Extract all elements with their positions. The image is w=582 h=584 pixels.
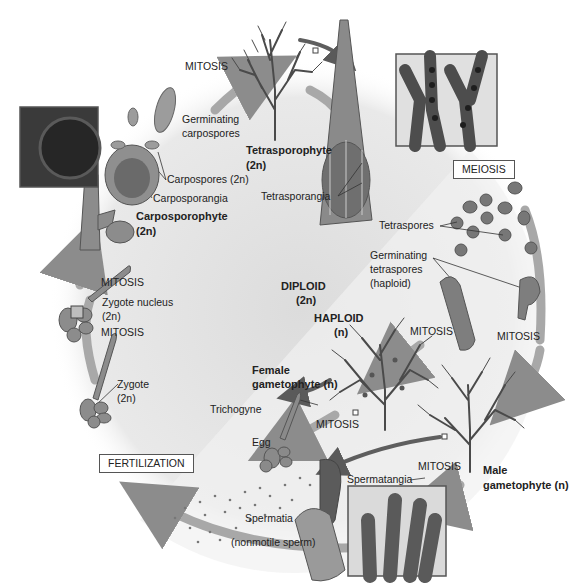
label-zygote-nucleus-ploidy: (2n) <box>102 310 121 323</box>
label-carposporophyte-ploidy: (2n) <box>136 225 156 238</box>
label-mitosis-female-lower: MITOSIS <box>316 418 359 431</box>
micrograph-tetrasporophyte <box>396 54 497 146</box>
label-germinating-carpospores-2: carpospores <box>182 127 240 140</box>
label-germinating-tetraspores-2: tetraspores <box>370 263 423 276</box>
label-carposporophyte: Carposporophyte <box>136 210 228 223</box>
label-diploid-ploidy: (2n) <box>296 294 316 307</box>
label-germinating-tetraspores-3: (haploid) <box>370 277 411 290</box>
label-zygote-ploidy: (2n) <box>117 392 136 405</box>
zoom-marker <box>313 48 318 53</box>
label-tetrasporophyte: Tetrasporophyte <box>246 144 332 157</box>
label-female-gametophyte-2: gametophyte (n) <box>252 378 338 391</box>
label-germinating-carpospores-1: Germinating <box>182 113 239 126</box>
life-cycle-diagram: MITOSIS Germinating carpospores Tetraspo… <box>0 0 582 584</box>
fertilization-box: FERTILIZATION <box>99 454 194 473</box>
label-nonmotile-sperm: (nonmotile sperm) <box>231 536 316 549</box>
label-tetrasporangia: Tetrasporangia <box>261 190 330 203</box>
label-carposporangia: Carposporangia <box>153 192 228 205</box>
label-haploid-ploidy: (n) <box>334 326 348 339</box>
label-egg: Egg <box>252 436 271 449</box>
label-mitosis-carpospores: MITOSIS <box>185 60 228 73</box>
label-tetraspores: Tetraspores <box>379 219 434 232</box>
label-female-gametophyte-1: Female <box>252 364 290 377</box>
label-trichogyne: Trichogyne <box>210 403 262 416</box>
label-haploid: HAPLOID <box>314 312 364 325</box>
label-spermatia: Spermatia <box>245 512 293 525</box>
label-zygote-nucleus: Zygote nucleus <box>102 296 173 309</box>
meiosis-box: MEIOSIS <box>453 160 515 179</box>
label-male-gametophyte-1: Male <box>483 464 507 477</box>
zoom-marker <box>442 434 447 439</box>
label-diploid: DIPLOID <box>281 280 326 293</box>
label-spermatangia: Spermatangia <box>347 473 412 486</box>
label-zygote: Zygote <box>117 378 149 391</box>
label-carpospores: Carpospores (2n) <box>167 173 249 186</box>
label-mitosis-carposporophyte: MITOSIS <box>101 276 144 289</box>
label-mitosis-male: MITOSIS <box>497 330 540 343</box>
label-germinating-tetraspores-1: Germinating <box>370 249 427 262</box>
label-male-gametophyte-2: gametophyte (n) <box>483 479 569 492</box>
label-mitosis-female: MITOSIS <box>410 325 453 338</box>
label-mitosis-zygote: MITOSIS <box>101 326 144 339</box>
label-mitosis-spermatangia: MITOSIS <box>418 460 461 473</box>
zoom-marker <box>353 410 358 415</box>
label-tetrasporophyte-ploidy: (2n) <box>246 159 266 172</box>
